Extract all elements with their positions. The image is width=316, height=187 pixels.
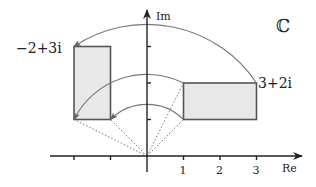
real-tick-label: 2 xyxy=(216,164,223,177)
real-axis-label: Re xyxy=(282,162,297,175)
point-label-3+2i: 3+2i xyxy=(258,75,293,91)
dotted-ray xyxy=(74,120,147,157)
imag-axis-label: Im xyxy=(156,10,171,23)
dotted-ray xyxy=(147,83,184,156)
point-label-neg2+3i: −2+3i xyxy=(16,40,62,56)
dotted-ray xyxy=(111,120,148,157)
dotted-ray xyxy=(147,120,184,157)
image-rectangle xyxy=(74,47,111,120)
complex-plane-symbol: ℂ xyxy=(276,15,290,36)
source-rectangle xyxy=(184,83,257,120)
complex-plane-diagram: ℂ Im Re 3+2i −2+3i 123 xyxy=(0,0,316,187)
real-tick-label: 3 xyxy=(253,164,260,177)
real-tick-label: 1 xyxy=(180,164,187,177)
